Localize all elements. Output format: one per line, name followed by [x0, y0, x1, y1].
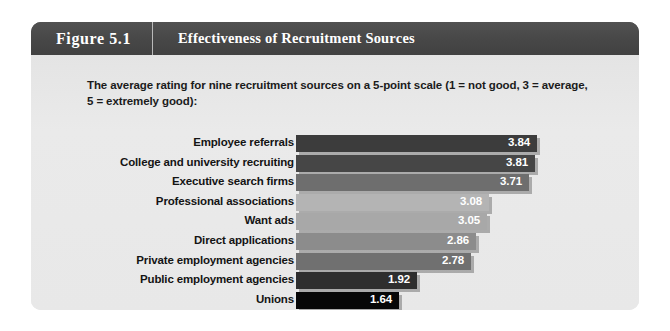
bar-wrapper: 2.86 [296, 233, 476, 250]
bar-wrapper: 1.92 [296, 272, 417, 289]
chart-row: Private employment agencies2.78 [31, 253, 639, 273]
bar-value-label: 3.05 [458, 214, 480, 226]
chart-row: Unions1.64 [31, 292, 639, 310]
bar-category-label: Employee referrals [193, 136, 294, 148]
bar-value-label: 1.92 [388, 273, 410, 285]
bar-wrapper: 3.84 [296, 135, 537, 152]
bar: 2.86 [296, 233, 476, 250]
figure-title: Effectiveness of Recruitment Sources [153, 30, 415, 47]
figure-header: Figure 5.1 Effectiveness of Recruitment … [31, 22, 639, 55]
bar-category-label: Executive search firms [172, 175, 294, 187]
bar-wrapper: 3.05 [296, 213, 487, 230]
bar: 1.92 [296, 272, 417, 289]
bar: 1.64 [296, 292, 399, 309]
chart-row: Want ads3.05 [31, 213, 639, 233]
chart-row: Professional associations3.08 [31, 194, 639, 214]
bar: 3.71 [296, 174, 529, 191]
bar: 3.08 [296, 194, 489, 211]
chart-row: Executive search firms3.71 [31, 174, 639, 194]
bar-value-label: 1.64 [370, 293, 392, 305]
bar-wrapper: 1.64 [296, 292, 399, 309]
bar-wrapper: 2.78 [296, 253, 471, 270]
bar-value-label: 2.86 [447, 234, 469, 246]
bar-wrapper: 3.71 [296, 174, 529, 191]
bar-category-label: Unions [256, 293, 294, 305]
bar-value-label: 3.71 [500, 175, 522, 187]
bar: 2.78 [296, 253, 471, 270]
bar-category-label: Want ads [245, 214, 295, 226]
bar-category-label: Direct applications [194, 234, 294, 246]
bar-value-label: 3.84 [508, 136, 530, 148]
bar: 3.81 [296, 155, 535, 172]
bar-value-label: 3.81 [506, 156, 528, 168]
bar: 3.84 [296, 135, 537, 152]
bar-category-label: Private employment agencies [136, 254, 294, 266]
figure-card: Figure 5.1 Effectiveness of Recruitment … [31, 22, 639, 310]
figure-body: The average rating for nine recruitment … [31, 55, 639, 310]
bar-chart: Employee referrals3.84College and univer… [31, 135, 639, 310]
bar: 3.05 [296, 213, 487, 230]
bar-category-label: Public employment agencies [140, 273, 294, 285]
chart-row: Direct applications2.86 [31, 233, 639, 253]
chart-row: Public employment agencies1.92 [31, 272, 639, 292]
chart-row: College and university recruiting3.81 [31, 155, 639, 175]
bar-value-label: 3.08 [460, 195, 482, 207]
chart-row: Employee referrals3.84 [31, 135, 639, 155]
bar-wrapper: 3.81 [296, 155, 535, 172]
bar-value-label: 2.78 [442, 254, 464, 266]
bar-category-label: Professional associations [156, 195, 294, 207]
bar-category-label: College and university recruiting [120, 156, 294, 168]
chart-description: The average rating for nine recruitment … [87, 77, 592, 109]
figure-number: Figure 5.1 [31, 30, 152, 48]
bar-wrapper: 3.08 [296, 194, 489, 211]
